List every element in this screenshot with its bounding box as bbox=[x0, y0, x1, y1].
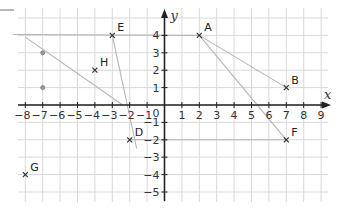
point-label: D bbox=[135, 126, 143, 139]
tick-labels: −8−7−6−5−4−3−2−1123456789−5−4−3−2−112340 bbox=[14, 29, 324, 199]
point-label: A bbox=[204, 21, 212, 34]
y-tick-label: 2 bbox=[153, 64, 160, 77]
x-tick-label: 7 bbox=[283, 109, 290, 122]
axes: xy bbox=[18, 8, 332, 201]
x-tick-label: 8 bbox=[300, 109, 307, 122]
x-tick-label: 1 bbox=[178, 109, 185, 122]
x-tick-label: 3 bbox=[213, 109, 220, 122]
coordinate-plane-figure: xy −8−7−6−5−4−3−2−1123456789−5−4−3−2−112… bbox=[0, 0, 339, 216]
y-tick-label: −3 bbox=[143, 151, 159, 164]
x-tick-label: −6 bbox=[49, 109, 65, 122]
y-axis-arrow-icon bbox=[161, 9, 168, 18]
y-tick-label: 4 bbox=[153, 29, 160, 42]
pencil-dot bbox=[41, 51, 45, 55]
x-tick-label: −8 bbox=[14, 109, 30, 122]
pencil-line bbox=[199, 35, 286, 87]
point-label: H bbox=[100, 56, 108, 69]
x-tick-label: 9 bbox=[318, 109, 325, 122]
x-tick-label: −2 bbox=[119, 109, 135, 122]
x-tick-label: −7 bbox=[32, 109, 48, 122]
y-tick-label: 1 bbox=[153, 82, 160, 95]
x-tick-label: −3 bbox=[101, 109, 117, 122]
plotted-points: ABDEFGH bbox=[23, 21, 299, 177]
y-tick-label: −2 bbox=[143, 134, 159, 147]
y-axis-label: y bbox=[170, 8, 179, 23]
x-tick-label: 5 bbox=[248, 109, 255, 122]
point-label: G bbox=[30, 161, 39, 174]
point-label: F bbox=[291, 126, 297, 139]
pencil-line bbox=[25, 37, 122, 105]
pencil-dot bbox=[41, 86, 45, 90]
origin-label: 0 bbox=[153, 107, 160, 120]
y-tick-label: 3 bbox=[153, 47, 160, 60]
x-tick-label: 6 bbox=[265, 109, 272, 122]
y-tick-label: −4 bbox=[143, 169, 159, 182]
x-tick-label: 4 bbox=[231, 109, 238, 122]
y-tick-label: −5 bbox=[143, 186, 159, 199]
x-tick-label: −4 bbox=[84, 109, 100, 122]
x-tick-label: 2 bbox=[196, 109, 203, 122]
x-tick-label: −5 bbox=[66, 109, 82, 122]
x-axis-arrow-icon bbox=[322, 102, 331, 109]
x-axis-label: x bbox=[324, 87, 332, 102]
coordinate-plane: xy −8−7−6−5−4−3−2−1123456789−5−4−3−2−112… bbox=[0, 0, 339, 216]
point-label: B bbox=[291, 74, 299, 87]
point-label: E bbox=[117, 21, 124, 34]
